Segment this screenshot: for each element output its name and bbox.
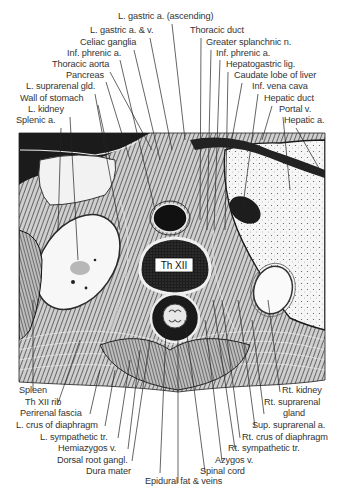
anatomy-label: L. suprarenal gld. — [26, 81, 95, 91]
anatomy-label: L. gastric a. (ascending) — [118, 11, 214, 21]
spinal-cord — [163, 304, 187, 328]
anatomy-label: Dura mater — [86, 466, 131, 476]
cross-section-drawing: Th XII — [19, 133, 325, 393]
anatomy-label: Wall of stomach — [20, 93, 84, 103]
anatomy-label: Rt. suprarenal — [264, 397, 320, 407]
anatomy-label: Spinal cord — [200, 466, 245, 476]
anatomy-label: Hemiazygos v. — [58, 443, 116, 453]
anatomy-label: Epidural fat & veins — [145, 476, 222, 486]
anatomy-label: Inf. phrenic a. — [216, 48, 270, 58]
anatomy-label: Rt. crus of diaphragm — [242, 432, 328, 442]
anatomy-label: Sup. suprarenal a. — [252, 420, 325, 430]
anatomy-label: Spleen — [19, 385, 47, 395]
anatomy-label: Thoracic aorta — [52, 59, 109, 69]
anatomy-label: L. crus of diaphragm — [16, 420, 98, 430]
anatomy-label: Celiac ganglia — [80, 37, 136, 47]
anatomy-label: Perirenal fascia — [20, 408, 82, 418]
anatomy-label: L. sympathetic tr. — [40, 432, 108, 442]
vertebra-label: Th XII — [161, 260, 188, 271]
anatomy-label: L. gastric a. & v. — [90, 25, 153, 35]
anatomy-label: Dorsal root gangl. — [57, 455, 128, 465]
thoracic-aorta — [153, 204, 187, 232]
anatomy-label: Caudate lobe of liver — [234, 70, 316, 80]
anatomy-label: Inf. vena cava — [252, 81, 308, 91]
anatomy-label: Thoracic duct — [190, 25, 244, 35]
anatomy-label: Pancreas — [66, 70, 104, 80]
anatomy-label: Splenic a. — [16, 115, 55, 125]
anatomy-label: Th XII rib — [25, 397, 61, 407]
anatomy-label: Portal v. — [279, 104, 311, 114]
anatomy-label: Rt. kidney — [282, 385, 322, 395]
anatomy-label: Hepatic a. — [284, 115, 324, 125]
anatomy-label: gland — [283, 408, 305, 418]
anatomy-label: Azygos v. — [215, 455, 253, 465]
anatomy-label: Rt. sympathetic tr. — [228, 443, 300, 453]
anatomy-label: Hepatogastric lig. — [226, 59, 295, 69]
anatomy-label: Inf. phrenic a. — [67, 48, 121, 58]
anatomy-label: Hepatic duct — [264, 93, 314, 103]
anatomy-label: Greater splanchnic n. — [206, 37, 291, 47]
anatomy-label: L. kidney — [28, 104, 64, 114]
